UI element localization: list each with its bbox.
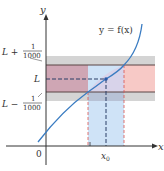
curve-label: y = f(x) [98, 25, 133, 35]
y-axis-label: y [39, 4, 46, 15]
x0-label: x0 [101, 151, 110, 162]
L-label: L [33, 74, 40, 84]
limit-point [104, 77, 108, 81]
lower-bound-num: 1 [31, 95, 35, 103]
x-axis-label: x [158, 141, 164, 152]
limit-diagram: y x 0 x0 y = f(x) L + 1 1000 L L − 1 100… [0, 0, 164, 171]
lower-label-pointer [38, 93, 42, 97]
lower-bound-prefix: L − [1, 99, 18, 109]
upper-bound-den: 1000 [23, 52, 41, 60]
upper-bound-num: 1 [31, 43, 35, 51]
lower-bound-den: 1000 [23, 104, 41, 112]
diagram-canvas: y x 0 x0 y = f(x) L + 1 1000 L L − 1 100… [0, 0, 164, 171]
origin-label: 0 [36, 149, 42, 159]
upper-bound-prefix: L + [1, 47, 18, 57]
